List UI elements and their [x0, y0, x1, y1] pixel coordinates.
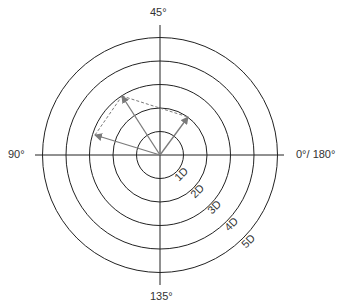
- axis-label-right: 0°/ 180°: [296, 148, 335, 160]
- dashed-lines: [95, 96, 188, 135]
- vector-left-arrow-icon: [95, 135, 160, 155]
- vectors: [95, 96, 188, 155]
- vector-right-arrow-icon: [160, 117, 188, 155]
- dashed-line-left: [95, 96, 122, 135]
- vector-upper-left-arrow-icon: [122, 96, 160, 155]
- axis-label-bottom: 135°: [150, 290, 173, 302]
- axis-label-top: 45°: [150, 6, 167, 18]
- dashed-line-top: [122, 96, 188, 117]
- polar-diagram: [0, 0, 343, 308]
- axis-label-left: 90°: [8, 148, 25, 160]
